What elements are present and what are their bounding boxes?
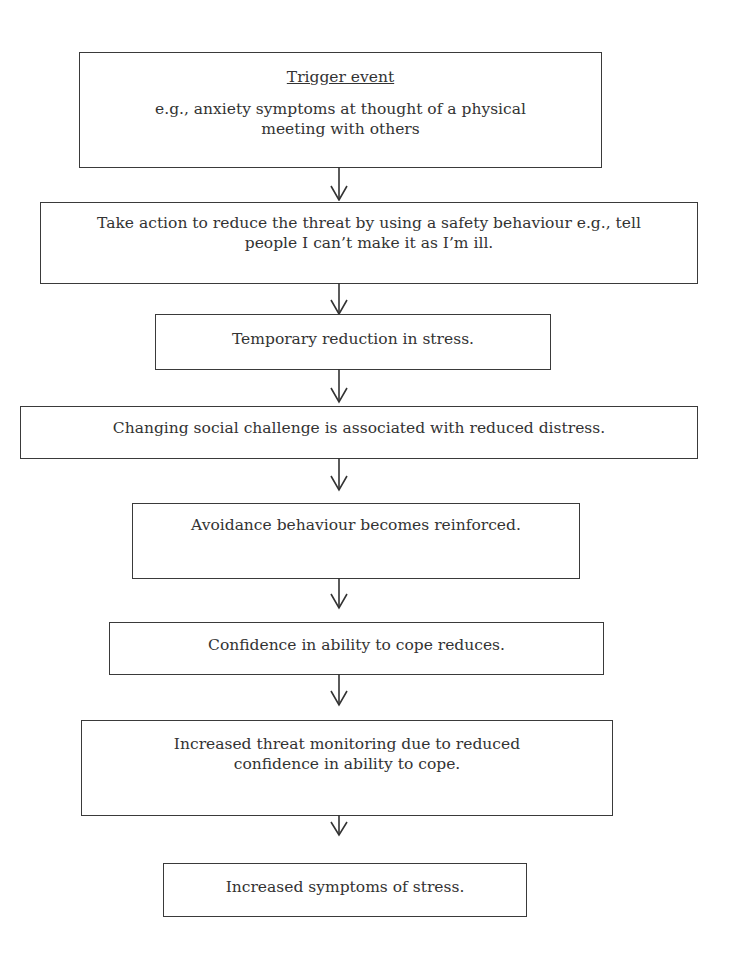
arrow-down-icon	[329, 674, 349, 708]
flow-node-confidence-reduces: Confidence in ability to cope reduces.	[109, 622, 604, 675]
node-text-line: Increased threat monitoring due to reduc…	[82, 734, 612, 754]
flow-node-safety-behaviour: Take action to reduce the threat by usin…	[40, 202, 698, 284]
flow-node-avoidance-reinforced: Avoidance behaviour becomes reinforced.	[132, 503, 580, 579]
arrow-down-icon	[329, 815, 349, 849]
flow-node-increased-threat-monitoring: Increased threat monitoring due to reduc…	[81, 720, 613, 816]
node-text-line: e.g., anxiety symptoms at thought of a p…	[80, 99, 601, 119]
node-text-line: people I can’t make it as I’m ill.	[41, 233, 697, 253]
flow-node-trigger-event: Trigger event e.g., anxiety symptoms at …	[79, 52, 602, 168]
arrow-down-icon	[329, 458, 349, 492]
node-text-line: Changing social challenge is associated …	[21, 418, 697, 438]
node-text-line: meeting with others	[80, 119, 601, 139]
arrow-down-icon	[329, 167, 349, 201]
flow-node-changing-social-challenge: Changing social challenge is associated …	[20, 406, 698, 459]
arrow-down-icon	[329, 369, 349, 403]
node-text-line: confidence in ability to cope.	[82, 754, 612, 774]
node-text-line: Increased symptoms of stress.	[164, 877, 526, 897]
node-text-line: Temporary reduction in stress.	[156, 329, 550, 349]
flow-node-temporary-reduction: Temporary reduction in stress.	[155, 314, 551, 370]
node-title: Trigger event	[80, 67, 601, 87]
arrow-down-icon	[329, 578, 349, 612]
arrow-down-icon	[329, 283, 349, 317]
flow-node-increased-symptoms: Increased symptoms of stress.	[163, 863, 527, 917]
node-text-line: Avoidance behaviour becomes reinforced.	[133, 515, 579, 535]
node-text-line: Confidence in ability to cope reduces.	[110, 635, 603, 655]
node-text-line: Take action to reduce the threat by usin…	[41, 213, 697, 233]
